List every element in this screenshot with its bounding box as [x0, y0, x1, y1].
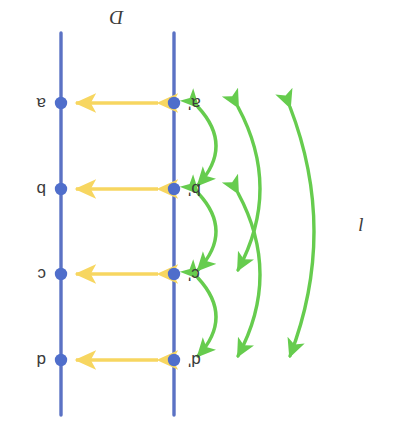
green-arc-b-to-c: [198, 193, 216, 270]
point-dot-b-prime: [168, 183, 180, 195]
point-dot-d: [55, 354, 67, 366]
point-label-c: c: [2, 266, 46, 283]
point-label-c-prime: c': [188, 266, 232, 283]
point-label-a: a: [2, 95, 46, 112]
point-label-a-prime: a': [188, 95, 232, 112]
point-dot-c-prime: [168, 268, 180, 280]
point-dot-a-prime: [168, 97, 180, 109]
line-label-D: D: [110, 8, 124, 27]
green-arc-a-to-d: [290, 107, 314, 356]
correspondence-arrows: [76, 103, 158, 360]
green-arc-a-to-b: [198, 107, 216, 185]
line-label-l: l: [359, 215, 364, 234]
point-dot-d-prime: [168, 354, 180, 366]
point-dot-a: [55, 97, 67, 109]
geometry-figure: d' c' b' a' d c b a l D: [0, 0, 394, 433]
point-label-b: b: [2, 181, 46, 198]
green-arc-c-to-d: [198, 278, 216, 356]
point-dot-b: [55, 183, 67, 195]
point-label-d-prime: d': [188, 352, 232, 369]
point-dot-c: [55, 268, 67, 280]
blue-lines: [61, 33, 174, 415]
mapping-arcs: [198, 107, 314, 356]
point-label-d: d: [2, 352, 46, 369]
point-dots: [55, 97, 180, 366]
point-label-b-prime: b': [188, 181, 232, 198]
